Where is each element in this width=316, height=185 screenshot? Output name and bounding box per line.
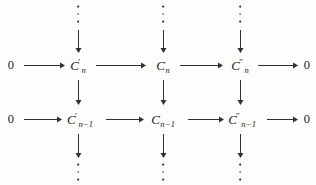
arrow-head — [237, 48, 243, 53]
vertical-arrow-top-right — [236, 30, 245, 53]
arrow-row-n-cprime-to-c — [96, 61, 146, 70]
vertical-arrow-top-left — [74, 30, 83, 53]
row-n-minus-1-right-zero: 0 — [304, 113, 310, 126]
arrow-shaft — [163, 80, 164, 101]
dot — [77, 179, 79, 181]
vertical-arrow-bottom-right — [236, 134, 245, 158]
row-n-minus-1-c: Cn−1 — [151, 113, 175, 126]
dot — [77, 21, 79, 23]
arrow-row-n-zero-to-cprime — [24, 61, 65, 70]
node-prime: ′ — [78, 57, 80, 67]
arrow-row-n-minus-1-zero-to-cprime — [24, 115, 62, 124]
node-subscript: n — [82, 65, 86, 75]
vertical-dots-top-middle — [162, 6, 164, 23]
vertical-dots-top-left — [77, 6, 79, 23]
arrow-head — [141, 62, 146, 68]
row-n-c: Cn — [156, 59, 169, 72]
arrow-shaft — [163, 134, 164, 154]
dot — [77, 6, 79, 8]
dot — [77, 171, 79, 173]
arrow-shaft — [240, 30, 241, 49]
arrow-shaft — [24, 119, 58, 120]
arrow-head — [293, 62, 298, 68]
vertical-arrow-bottom-middle — [159, 134, 168, 158]
arrow-head — [237, 153, 243, 158]
arrow-head — [293, 116, 298, 122]
row-n-left-zero: 0 — [8, 59, 14, 72]
row-n-minus-1-c-prime: C′n−1 — [67, 113, 93, 126]
arrow-shaft — [188, 119, 220, 120]
vertical-dots-bottom-right — [239, 164, 241, 181]
arrow-head — [57, 116, 62, 122]
dot — [77, 13, 79, 15]
node-prime: ″ — [236, 111, 240, 121]
dot — [239, 171, 241, 173]
dot — [239, 13, 241, 15]
arrow-head — [160, 153, 166, 158]
dot — [239, 6, 241, 8]
dot — [239, 179, 241, 181]
arrow-shaft — [258, 65, 294, 66]
vertical-arrow-middle-middle — [159, 80, 168, 105]
node-prime: ′ — [75, 111, 77, 121]
arrow-row-n-minus-1-c-to-cdprime — [188, 115, 224, 124]
row-n-c-prime: C′n — [70, 59, 86, 72]
arrow-shaft — [78, 30, 79, 49]
node-base: C — [151, 112, 160, 127]
arrow-shaft — [24, 65, 61, 66]
arrow-shaft — [267, 119, 294, 120]
arrow-head — [219, 116, 224, 122]
row-n-right-zero: 0 — [304, 59, 310, 72]
dot — [162, 21, 164, 23]
arrow-shaft — [96, 65, 142, 66]
arrow-head — [160, 100, 166, 105]
dot — [162, 164, 164, 166]
vertical-arrow-middle-right — [236, 80, 245, 105]
vertical-dots-bottom-middle — [162, 164, 164, 181]
arrow-shaft — [240, 134, 241, 154]
vertical-arrow-bottom-left — [74, 134, 83, 158]
vertical-dots-bottom-left — [77, 164, 79, 181]
dot — [162, 171, 164, 173]
commutative-diagram: 0 C′n Cn C″n 0 0 — [0, 0, 316, 185]
arrow-row-n-cdprime-to-zero — [258, 61, 298, 70]
vertical-arrow-top-middle — [159, 30, 168, 53]
row-n-c-double-prime: C″n — [231, 59, 248, 72]
arrow-row-n-c-to-cdprime — [180, 61, 223, 70]
row-n-minus-1-c-double-prime: C″n−1 — [228, 113, 256, 126]
arrow-head — [75, 100, 81, 105]
arrow-head — [60, 62, 65, 68]
node-subscript: n — [166, 65, 170, 75]
arrow-shaft — [180, 65, 219, 66]
node-base: C — [156, 58, 165, 73]
dot — [77, 164, 79, 166]
dot — [162, 6, 164, 8]
arrow-head — [75, 48, 81, 53]
dot — [162, 179, 164, 181]
arrow-shaft — [106, 119, 140, 120]
arrow-row-n-minus-1-cdprime-to-zero — [267, 115, 298, 124]
arrow-head — [160, 48, 166, 53]
arrow-head — [139, 116, 144, 122]
node-subscript: n — [244, 65, 248, 75]
row-n-minus-1-left-zero: 0 — [8, 113, 14, 126]
arrow-shaft — [163, 30, 164, 49]
arrow-head — [75, 153, 81, 158]
node-subscript: n−1 — [78, 119, 93, 129]
arrow-shaft — [78, 134, 79, 154]
node-subscript: n−1 — [160, 119, 175, 129]
node-subscript: n−1 — [241, 119, 256, 129]
arrow-row-n-minus-1-cprime-to-c — [106, 115, 144, 124]
arrow-shaft — [240, 80, 241, 101]
vertical-dots-top-right — [239, 6, 241, 23]
vertical-arrow-middle-left — [74, 80, 83, 105]
dot — [162, 13, 164, 15]
dot — [239, 21, 241, 23]
arrow-head — [218, 62, 223, 68]
arrow-shaft — [78, 80, 79, 101]
node-prime: ″ — [239, 57, 243, 67]
arrow-head — [237, 100, 243, 105]
dot — [239, 164, 241, 166]
